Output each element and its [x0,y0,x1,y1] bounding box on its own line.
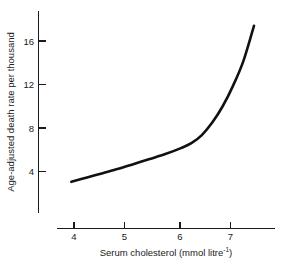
y-tick-label-4: 4 [29,166,34,177]
y-axis-tick-labels: 16 12 8 4 [23,36,34,178]
y-tick-label-12: 12 [23,79,34,90]
y-tick-label-16: 16 [23,36,34,47]
x-tick-label-6: 6 [177,231,182,242]
x-tick-label-5: 5 [122,231,127,242]
y-axis-ticks [39,41,47,172]
x-tick-label-7: 7 [228,231,233,242]
line-chart: 16 12 8 4 4 5 6 7 Serum cholesterol (mmo… [0,0,283,266]
x-axis-title-main: Serum cholesterol (mmol litre [100,247,224,258]
y-axis-title: Age-adjusted death rate per thousand [5,32,16,192]
x-axis-tick-labels: 4 5 6 7 [71,231,233,242]
x-tick-label-4: 4 [71,231,76,242]
x-axis-title: Serum cholesterol (mmol litre-1) [100,246,233,258]
x-axis-ticks [74,222,231,229]
death-rate-curve [71,26,254,182]
x-axis-title-close: ) [229,247,232,258]
chart-figure: 16 12 8 4 4 5 6 7 Serum cholesterol (mmo… [0,0,283,266]
y-tick-label-8: 8 [29,123,34,134]
